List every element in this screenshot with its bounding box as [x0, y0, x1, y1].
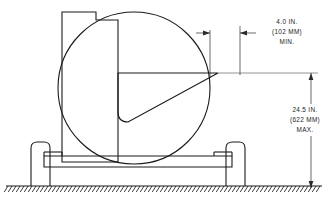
- ground-hatch-tick: [200, 186, 204, 192]
- ground-hatch-tick: [228, 186, 232, 192]
- dimension-nozzle-projection: 4.0 IN. (102 MM) MIN.: [196, 18, 302, 78]
- ground-hatch-tick: [24, 186, 28, 192]
- ground-hatch-tick: [92, 186, 96, 192]
- ground-hatch-tick: [112, 186, 116, 192]
- ground-hatch-tick: [104, 186, 108, 192]
- ground-hatch-tick: [300, 186, 304, 192]
- ground-hatch-tick: [84, 186, 88, 192]
- ground-hatch-tick: [68, 186, 72, 192]
- ground-hatch-tick: [172, 186, 176, 192]
- dim-vertical-line2: (622 MM): [290, 116, 320, 124]
- ground-hatch-tick: [208, 186, 212, 192]
- ground-hatch-tick: [232, 186, 236, 192]
- ground-hatch-tick: [308, 186, 312, 192]
- dim-vertical-line3: MAX.: [296, 126, 313, 133]
- ground-hatch-tick: [60, 186, 64, 192]
- ground-hatch-tick: [188, 186, 192, 192]
- ground-hatch-tick: [276, 186, 280, 192]
- ground-hatch-tick: [136, 186, 140, 192]
- ground-hatch-tick: [184, 186, 188, 192]
- hose-reel-drum: [58, 12, 210, 164]
- right-wheel: [226, 142, 245, 186]
- ground-hatch-tick: [56, 186, 60, 192]
- ground-hatch-tick: [8, 186, 12, 192]
- ground-hatch-tick: [156, 186, 160, 192]
- ground-hatch-tick: [256, 186, 260, 192]
- ground-hatch-tick: [148, 186, 152, 192]
- ground-hatch-tick: [32, 186, 36, 192]
- ground-hatch-tick: [40, 186, 44, 192]
- ground-hatch-tick: [36, 186, 40, 192]
- left-wheel: [31, 142, 50, 186]
- ground-hatch-tick: [216, 186, 220, 192]
- ground-hatch-tick: [244, 186, 248, 192]
- ground-hatch-tick: [224, 186, 228, 192]
- ground-hatch-tick: [168, 186, 172, 192]
- base-rail: [44, 152, 232, 167]
- ground-hatch-tick: [152, 186, 156, 192]
- ground-hatch-tick: [248, 186, 252, 192]
- dimension-nozzle-height: 24.5 IN. (622 MM) MAX.: [283, 73, 327, 188]
- ground-hatch-tick: [176, 186, 180, 192]
- ground-hatch-tick: [44, 186, 48, 192]
- ground-hatch-tick: [28, 186, 32, 192]
- ground-hatching: [4, 186, 322, 192]
- ground-hatch-tick: [128, 186, 132, 192]
- ground-hatch-tick: [236, 186, 240, 192]
- ground-hatch-tick: [88, 186, 92, 192]
- ground-hatch-tick: [96, 186, 100, 192]
- dim-horizontal-line2: (102 MM): [272, 28, 302, 36]
- ground-hatch-tick: [124, 186, 128, 192]
- ground-hatch-tick: [180, 186, 184, 192]
- ground-hatch-tick: [192, 186, 196, 192]
- ground-hatch-tick: [100, 186, 104, 192]
- ground-hatch-tick: [296, 186, 300, 192]
- ground-hatch-tick: [76, 186, 80, 192]
- ground-hatch-tick: [292, 186, 296, 192]
- ground-hatch-tick: [20, 186, 24, 192]
- ground-hatch-tick: [72, 186, 76, 192]
- ground-hatch-tick: [288, 186, 292, 192]
- ground-hatch-tick: [164, 186, 168, 192]
- ground-hatch-tick: [16, 186, 20, 192]
- dim-vertical-line1: 24.5 IN.: [292, 106, 317, 113]
- ground-hatch-tick: [108, 186, 112, 192]
- ground-hatch-tick: [204, 186, 208, 192]
- ground-hatch-tick: [272, 186, 276, 192]
- ground-hatch-tick: [316, 186, 320, 192]
- ground-hatch-tick: [52, 186, 56, 192]
- ground-hatch-tick: [280, 186, 284, 192]
- nozzle-wedge: [118, 73, 218, 122]
- ground-hatch-tick: [116, 186, 120, 192]
- ground-hatch-tick: [48, 186, 52, 192]
- ground-hatch-tick: [260, 186, 264, 192]
- ground-hatch-tick: [160, 186, 164, 192]
- dim-horizontal-line3: MIN.: [280, 38, 295, 45]
- ground-hatch-tick: [144, 186, 148, 192]
- ground-hatch-tick: [268, 186, 272, 192]
- ground-hatch-tick: [252, 186, 256, 192]
- ground-hatch-tick: [132, 186, 136, 192]
- technical-drawing-canvas: 4.0 IN. (102 MM) MIN. 24.5 IN. (622 MM) …: [0, 0, 328, 206]
- ground-hatch-tick: [12, 186, 16, 192]
- ground-hatch-tick: [196, 186, 200, 192]
- ground-hatch-tick: [304, 186, 308, 192]
- ground-hatch-tick: [120, 186, 124, 192]
- ground-hatch-tick: [220, 186, 224, 192]
- ground-hatch-tick: [80, 186, 84, 192]
- ground-hatch-tick: [212, 186, 216, 192]
- ground-hatch-tick: [264, 186, 268, 192]
- ground-hatch-tick: [312, 186, 316, 192]
- ground-hatch-tick: [4, 186, 8, 192]
- hose-reel-elevation-drawing: 4.0 IN. (102 MM) MIN. 24.5 IN. (622 MM) …: [0, 0, 328, 206]
- dim-horizontal-line1: 4.0 IN.: [276, 18, 297, 25]
- ground-hatch-tick: [284, 186, 288, 192]
- ground-hatch-tick: [64, 186, 68, 192]
- cart-body-frame: [62, 12, 118, 162]
- ground-hatch-tick: [140, 186, 144, 192]
- ground-hatch-tick: [240, 186, 244, 192]
